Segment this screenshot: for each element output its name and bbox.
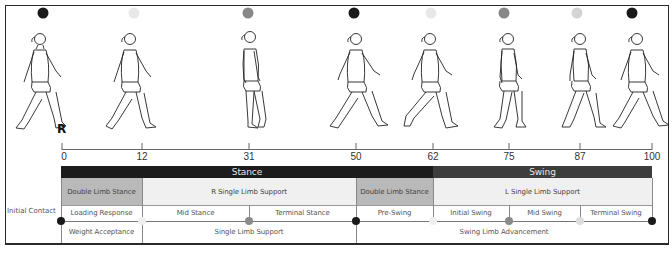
stance-phase-bar: Stance [61, 166, 433, 178]
loading-response-cell: Loading Response [61, 205, 142, 221]
phase-dot-loading-response [129, 8, 140, 19]
terminal-stance-cell: Terminal Stance [249, 205, 356, 221]
axis-tick-label: 62 [427, 151, 438, 162]
axis-tick [580, 143, 581, 150]
walking-figure-terminal-swing [607, 27, 669, 137]
phase-dot-pre-swing [426, 8, 437, 19]
walking-figure-terminal-stance [328, 27, 390, 137]
phase-dot-initial-contact [38, 8, 49, 19]
grid-line [142, 178, 143, 243]
event-dot-toe-off [429, 217, 437, 225]
axis-tick [249, 143, 250, 150]
grid-line [652, 178, 653, 221]
axis-tick [652, 143, 653, 150]
axis-tick-label: 100 [644, 151, 661, 162]
swing-phase-bar: Swing [433, 166, 652, 178]
phase-dot-terminal-stance [349, 8, 360, 19]
event-dot-initial-contact [57, 217, 65, 225]
axis-tick [509, 143, 510, 150]
axis-tick-label: 31 [243, 151, 254, 162]
phase-dot-mid-swing [572, 8, 583, 19]
axis-tick [62, 143, 63, 150]
walking-figure-initial-swing [478, 27, 540, 137]
event-dot-heel-rise [245, 217, 253, 225]
weight-acceptance-cell: Weight Acceptance [61, 221, 142, 243]
event-dot-opposite-initial-contact [352, 217, 360, 225]
axis-tick-label: 50 [350, 151, 361, 162]
walking-figure-heel-strike [14, 27, 76, 137]
initial-contact-label: Initial Contact [7, 207, 56, 215]
gait-cycle-axis [62, 149, 652, 150]
r-single-limb-support-cell: R Single Limb Support [142, 178, 356, 205]
terminal-swing-cell: Terminal Swing [580, 205, 652, 221]
walking-figure-mid-stance [222, 27, 284, 137]
axis-tick [433, 143, 434, 150]
walking-figure-mid-swing [550, 27, 612, 137]
axis-tick-label: 75 [503, 151, 514, 162]
axis-tick-label: 87 [574, 151, 585, 162]
phase-dot-initial-swing [499, 8, 510, 19]
double-limb-stance-cell: Double Limb Stance [61, 178, 142, 205]
axis-tick-label: 12 [136, 151, 147, 162]
mid-swing-cell: Mid Swing [509, 205, 580, 221]
walking-figure-pre-swing [400, 27, 462, 137]
pre-swing-cell: Pre-Swing [356, 205, 433, 221]
phase-dot-terminal-swing [627, 8, 638, 19]
axis-tick [356, 143, 357, 150]
right-limb-marker: R [57, 122, 66, 136]
grid-line [433, 178, 434, 221]
axis-tick-label: 0 [61, 151, 67, 162]
walking-figure-loading-response [104, 27, 166, 137]
event-dot-next-initial-contact [648, 217, 656, 225]
initial-swing-cell: Initial Swing [433, 205, 509, 221]
event-dot-opposite-toe-off [138, 217, 146, 225]
event-dot-tibia-vertical [576, 217, 584, 225]
grid-line [61, 178, 62, 243]
event-dot-feet-adjacent [505, 217, 513, 225]
axis-tick [142, 143, 143, 150]
double-limb-stance-cell: Double Limb Stance [356, 178, 433, 205]
l-single-limb-support-cell: L Single Limb Support [433, 178, 652, 205]
phase-dot-mid-stance [243, 8, 254, 19]
grid-line [356, 178, 357, 243]
swing-limb-advancement-cell: Swing Limb Advancement [356, 221, 652, 243]
mid-stance-cell: Mid Stance [142, 205, 249, 221]
